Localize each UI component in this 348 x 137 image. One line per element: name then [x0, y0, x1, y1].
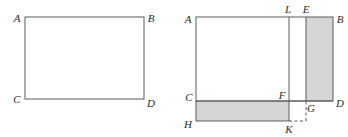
vertex-label-A-left: A: [13, 12, 21, 24]
rectangle-abcd: [25, 17, 144, 99]
figure-left: A B C D: [13, 12, 155, 109]
vertex-label-H-right: H: [183, 118, 193, 130]
vertex-label-E-right: E: [302, 3, 310, 15]
vertex-label-A-right: A: [184, 13, 192, 25]
vertex-label-D-right: D: [335, 97, 344, 109]
geometry-diagram-canvas: A B C D A: [0, 0, 348, 137]
vertex-label-C-right: C: [185, 91, 193, 103]
vertex-label-B-left: B: [148, 12, 155, 24]
vertex-label-F-right: F: [278, 89, 286, 101]
figure-right: A L E B C F G D H K: [183, 3, 344, 135]
vertex-label-D-left: D: [146, 97, 155, 109]
shaded-region-right-vertical-strip: [306, 17, 333, 101]
vertex-label-C-left: C: [13, 93, 21, 105]
vertex-label-K-right: K: [284, 123, 293, 135]
vertex-label-L-right: L: [284, 3, 291, 15]
vertex-label-G-right: G: [307, 102, 315, 114]
shaded-region-bottom-horizontal-strip: [196, 101, 289, 121]
diagram-svg: A B C D A: [0, 0, 348, 137]
vertex-label-B-right: B: [337, 13, 344, 25]
